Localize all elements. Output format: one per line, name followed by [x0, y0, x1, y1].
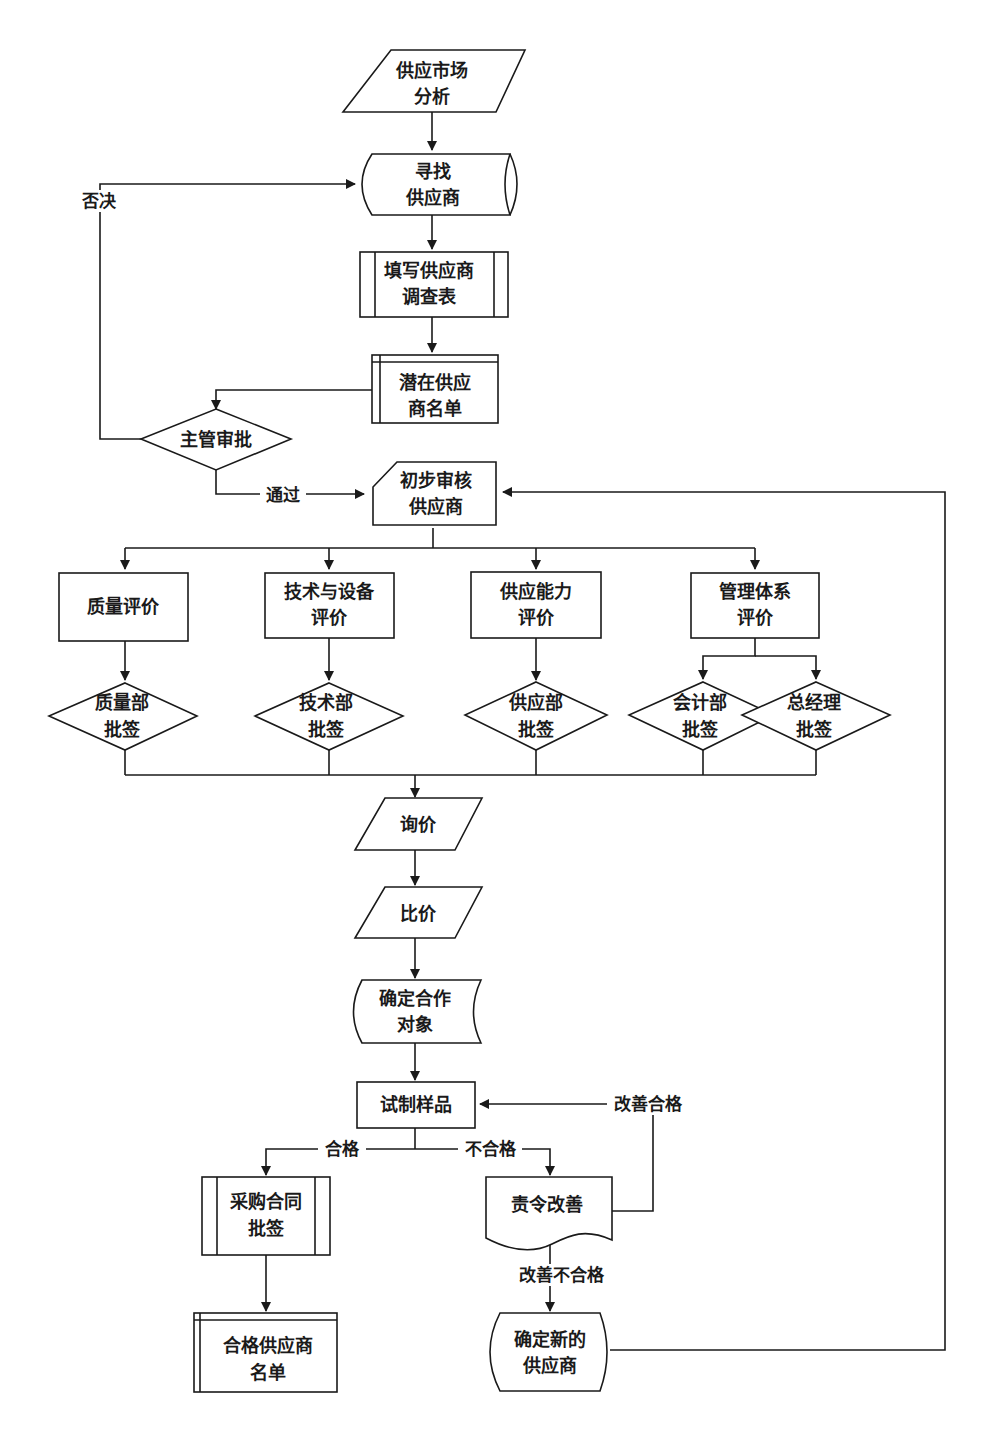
node-find-supplier[interactable]: 寻找 供应商 — [362, 154, 517, 215]
node-label: 调查表 — [402, 286, 457, 307]
node-new-supplier[interactable]: 确定新的 供应商 — [490, 1313, 607, 1391]
node-label: 主管审批 — [180, 429, 252, 450]
node-compare-price[interactable]: 比价 — [355, 887, 482, 938]
node-quality-eval[interactable]: 质量评价 — [59, 573, 188, 641]
node-supply-eval[interactable]: 供应能力 评价 — [471, 572, 601, 638]
node-label: 确定合作 — [379, 988, 451, 1009]
node-survey-form[interactable]: 填写供应商 调查表 — [360, 252, 508, 317]
node-label: 总经理 — [787, 692, 841, 713]
edge-label-improve-fail: 改善不合格 — [519, 1265, 605, 1285]
node-market-analysis[interactable]: 供应市场 分析 — [343, 50, 525, 112]
edge-label-improve-ok: 改善合格 — [614, 1094, 683, 1114]
node-label: 供应市场 — [395, 60, 468, 81]
node-label: 批签 — [682, 719, 719, 740]
edge-label-qualified: 合格 — [325, 1139, 360, 1159]
node-label: 评价 — [737, 607, 774, 628]
node-label: 商名单 — [408, 398, 462, 419]
node-label: 技术部 — [299, 692, 353, 713]
node-label: 技术与设备 — [284, 581, 375, 602]
node-label: 责令改善 — [511, 1194, 583, 1215]
node-trial-sample[interactable]: 试制样品 — [357, 1082, 475, 1128]
node-tech-eval[interactable]: 技术与设备 评价 — [265, 573, 394, 638]
node-label: 质量部 — [95, 692, 149, 713]
edge-label-reject: 否决 — [81, 191, 117, 211]
node-label: 供应商 — [522, 1355, 577, 1376]
node-label: 批签 — [518, 719, 555, 740]
node-label: 供应能力 — [499, 581, 572, 602]
node-contract-sign[interactable]: 采购合同 批签 — [202, 1177, 330, 1255]
node-supply-sign[interactable]: 供应部 批签 — [465, 682, 607, 750]
node-gm-sign[interactable]: 总经理 批签 — [742, 682, 890, 750]
node-label: 会计部 — [673, 692, 727, 713]
node-label: 填写供应商 — [384, 260, 474, 281]
node-label: 批签 — [104, 719, 141, 740]
node-label: 质量评价 — [87, 596, 160, 617]
node-manager-approval[interactable]: 主管审批 — [141, 409, 291, 470]
node-label: 确定新的 — [514, 1329, 586, 1350]
edge-label-pass: 通过 — [266, 485, 300, 505]
node-label: 评价 — [518, 607, 555, 628]
node-label: 供应商 — [408, 496, 463, 517]
node-label: 寻找 — [415, 161, 451, 182]
node-label: 批签 — [308, 719, 345, 740]
node-label: 潜在供应 — [399, 372, 471, 393]
node-label: 初步审核 — [400, 470, 472, 491]
node-qualified-list[interactable]: 合格供应商 名单 — [194, 1313, 337, 1392]
node-label: 批签 — [248, 1218, 285, 1239]
node-label: 批签 — [796, 719, 833, 740]
node-tech-sign[interactable]: 技术部 批签 — [255, 683, 403, 750]
node-label: 试制样品 — [380, 1094, 452, 1115]
node-label: 对象 — [397, 1014, 433, 1035]
edge-label-unqualified: 不合格 — [465, 1139, 517, 1159]
node-label: 分析 — [414, 86, 450, 107]
node-mgmt-eval[interactable]: 管理体系 评价 — [691, 573, 819, 638]
node-potential-list[interactable]: 潜在供应 商名单 — [372, 355, 498, 423]
node-confirm-partner[interactable]: 确定合作 对象 — [354, 980, 482, 1043]
node-inquiry[interactable]: 询价 — [355, 798, 482, 850]
node-label: 供应部 — [508, 692, 563, 713]
node-label: 供应商 — [405, 187, 460, 208]
flowchart-canvas: 供应市场 分析 寻找 供应商 填写供应商 调查表 潜在供应 商名单 主管审批 初… — [0, 0, 989, 1431]
node-quality-sign[interactable]: 质量部 批签 — [49, 683, 197, 750]
node-label: 合格供应商 — [223, 1335, 313, 1356]
node-preliminary-review[interactable]: 初步审核 供应商 — [373, 462, 496, 525]
node-label: 评价 — [311, 607, 348, 628]
node-order-improve[interactable]: 责令改善 — [486, 1177, 612, 1250]
node-label: 名单 — [250, 1362, 286, 1383]
node-label: 比价 — [400, 903, 437, 924]
node-label: 管理体系 — [719, 581, 791, 602]
node-label: 采购合同 — [229, 1191, 302, 1212]
node-label: 询价 — [400, 814, 437, 835]
